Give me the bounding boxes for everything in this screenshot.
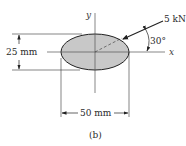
width-dimension-label: 50 mm [80,108,112,118]
y-axis-label: y [85,10,92,20]
x-axis-label: x [169,47,174,57]
force-label: 5 kN [164,14,186,24]
cross-section-diagram: y x 5 kN 30° 25 mm 50 mm (b) [0,0,186,146]
angle-label: 30° [150,36,166,46]
figure-caption: (b) [89,130,102,140]
angle-arc [146,30,149,51]
height-dimension-label: 25 mm [6,47,38,57]
